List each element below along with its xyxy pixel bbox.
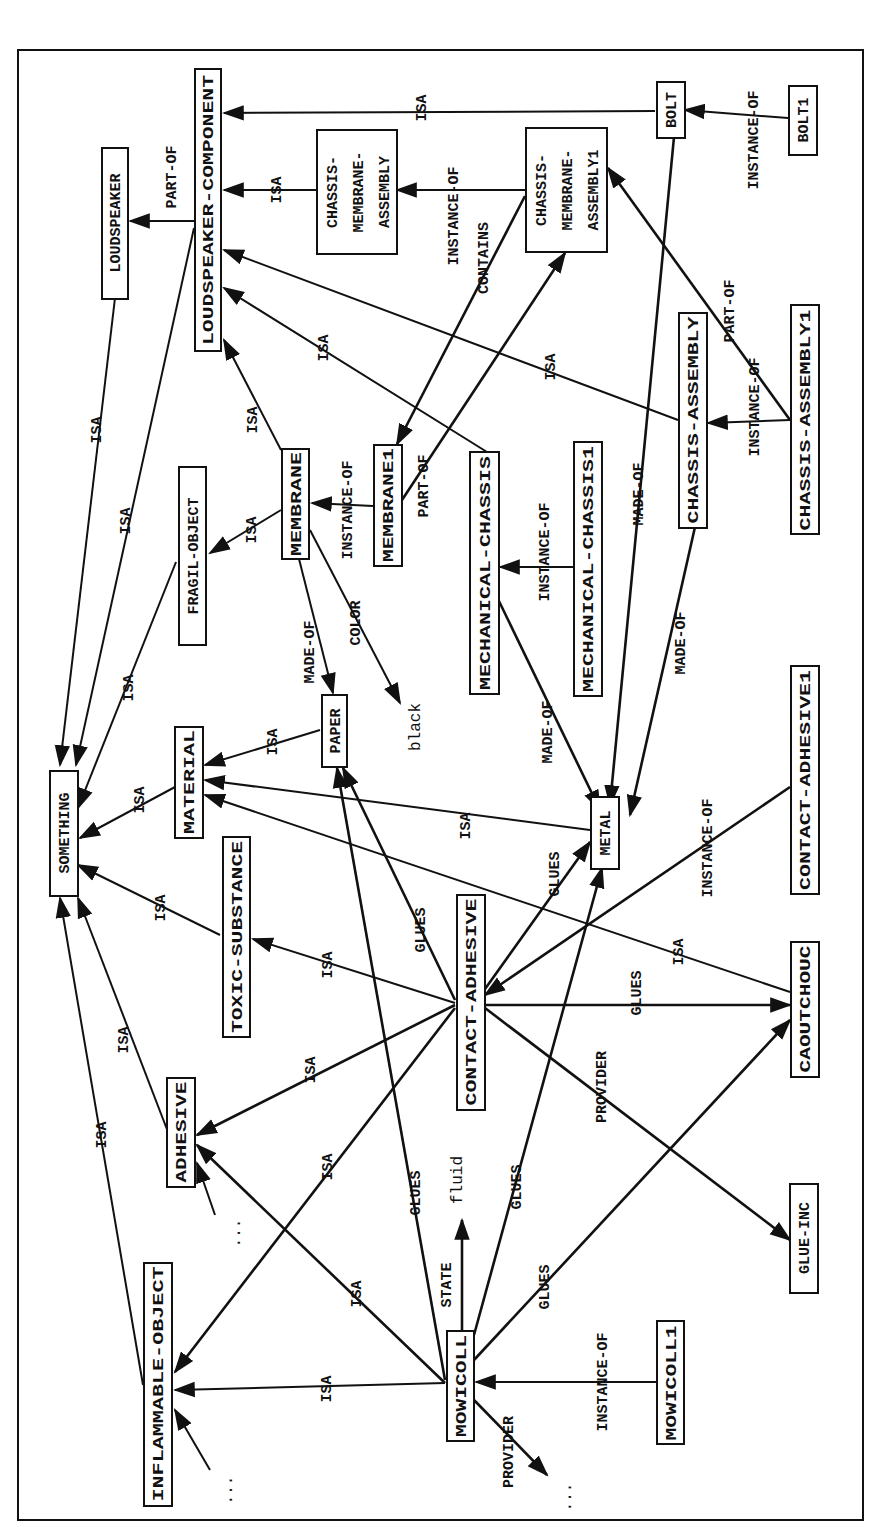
edge-isa-metal-material bbox=[205, 780, 590, 830]
edge-label-isa: ISA bbox=[132, 786, 149, 813]
edge-label-isa: ISA bbox=[303, 1056, 320, 1083]
edge-label-glues: GLUES bbox=[629, 970, 646, 1015]
node-label: PAPER bbox=[328, 708, 345, 753]
node-label: BOLT1 bbox=[796, 97, 813, 142]
node-label: LOUDSPEAKER bbox=[108, 173, 125, 272]
edge-label-isa: ISA bbox=[153, 894, 170, 921]
node-label: fluid bbox=[449, 1156, 467, 1204]
node-chassis-assembly[interactable]: CHASSIS-ASSEMBLY bbox=[679, 313, 707, 528]
node-black[interactable]: black bbox=[407, 703, 425, 751]
edge-label-glues: GLUES bbox=[413, 907, 430, 952]
node-membrane1[interactable]: MEMBRANE1 bbox=[374, 445, 402, 566]
node-mechanical-chassis[interactable]: MECHANICAL-CHASSIS bbox=[470, 452, 499, 694]
edge-label-made-of: MADE-OF bbox=[302, 620, 319, 683]
node-toxic-substance[interactable]: TOXIC-SUBSTANCE bbox=[223, 837, 250, 1037]
edge-label-instance-of: INSTANCE-OF bbox=[537, 502, 554, 601]
node-loudspeaker-component[interactable]: LOUDSPEAKER-COMPONENT bbox=[195, 69, 221, 351]
edge-label-instance-of: INSTANCE-OF bbox=[700, 798, 717, 897]
node-bolt1[interactable]: BOLT1 bbox=[789, 86, 817, 155]
edge-label-contains: CONTAINS bbox=[476, 222, 493, 294]
edge-label-isa: ISA bbox=[319, 1375, 336, 1402]
node-loudspeaker[interactable]: LOUDSPEAKER bbox=[102, 148, 128, 299]
edge-isa-mc-lc bbox=[224, 288, 487, 452]
edge-label-made-of: MADE-OF bbox=[540, 700, 557, 763]
edge-label-instance-of: INSTANCE-OF bbox=[446, 166, 463, 265]
edge-isa-mowicoll-inflammable bbox=[175, 1383, 445, 1390]
node-label: CAOUTCHOUC bbox=[798, 946, 815, 1073]
edge-label-isa: ISA bbox=[265, 728, 282, 755]
ellipsis-label: ... bbox=[227, 1219, 245, 1248]
node-caoutchouc[interactable]: CAOUTCHOUC bbox=[791, 942, 819, 1077]
edge-label-isa: ISA bbox=[245, 406, 262, 433]
node-label: LOUDSPEAKER-COMPONENT bbox=[201, 75, 218, 345]
node-label: MOWICOLL bbox=[454, 1335, 471, 1437]
edge-label-part-of: PART-OF bbox=[164, 145, 181, 208]
edge-glues-ca-paper bbox=[343, 768, 455, 1000]
node-glue-inc[interactable]: GLUE-INC bbox=[790, 1184, 818, 1293]
edge-label-instance-of: INSTANCE-OF bbox=[747, 357, 764, 456]
edge-instance-of-bolt1-bolt bbox=[685, 110, 788, 118]
edge-isa-toxic-something bbox=[78, 865, 220, 935]
node-chassis-assembly1[interactable]: CHASSIS-ASSEMBLY1 bbox=[791, 305, 819, 534]
edge-ellipsis-inflammable bbox=[175, 1410, 210, 1470]
node-chassis-membrane-assembly1[interactable]: CHASSIS- MEMBRANE- ASSEMBLY1 bbox=[526, 128, 607, 252]
node-label: MATERIAL bbox=[182, 730, 199, 834]
node-label-line-1: CHASSIS- bbox=[325, 156, 342, 228]
node-paper[interactable]: PAPER bbox=[322, 695, 347, 767]
edge-label-isa: ISA bbox=[349, 1280, 366, 1307]
edge-ellipsis-adhesive bbox=[197, 1163, 215, 1215]
edge-label-provider: PROVIDER bbox=[501, 1416, 518, 1488]
edge-label-isa: ISA bbox=[320, 951, 337, 978]
node-label: MECHANICAL-CHASSIS bbox=[478, 456, 495, 690]
node-label-line-2: MEMBRANE- bbox=[560, 149, 577, 230]
node-label: FRAGIL-OBJECT bbox=[186, 497, 203, 614]
node-label: ADHESIVE bbox=[174, 1082, 191, 1183]
node-adhesive[interactable]: ADHESIVE bbox=[167, 1078, 195, 1187]
semantic-network-diagram: PART-OF ISA ISA INSTANCE-OF CONTAINS INS… bbox=[0, 0, 878, 1527]
edge-label-part-of: PART-OF bbox=[416, 454, 433, 517]
edge-label-color: COLOR bbox=[348, 600, 365, 645]
edge-label-part-of: PART-OF bbox=[722, 279, 739, 342]
edge-label-isa: ISA bbox=[118, 507, 135, 534]
node-ellipsis-inflammable[interactable]: ... bbox=[219, 1476, 237, 1505]
node-label: CONTACT-ADHESIVE1 bbox=[798, 670, 815, 890]
node-label-line-3: ASSEMBLY bbox=[377, 156, 394, 228]
node-mechanical-chassis1[interactable]: MECHANICAL-CHASSIS1 bbox=[574, 442, 602, 696]
edge-isa-adhesive-something bbox=[78, 898, 168, 1132]
node-metal[interactable]: METAL bbox=[591, 797, 619, 869]
node-chassis-membrane-assembly[interactable]: CHASSIS- MEMBRANE- ASSEMBLY bbox=[317, 130, 397, 254]
edge-label-instance-of: INSTANCE-OF bbox=[340, 460, 357, 559]
edge-label-isa: ISA bbox=[458, 812, 475, 839]
edge-label-isa: ISA bbox=[94, 1121, 111, 1148]
node-bolt[interactable]: BOLT bbox=[657, 82, 685, 138]
node-label: TOXIC-SUBSTANCE bbox=[230, 841, 247, 1033]
node-label: MECHANICAL-CHASSIS1 bbox=[581, 446, 598, 692]
node-ellipsis-adhesive[interactable]: ... bbox=[227, 1219, 245, 1248]
edge-label-glues: GLUES bbox=[408, 1170, 425, 1215]
node-label: CONTACT-ADHESIVE bbox=[464, 899, 481, 1106]
edge-label-instance-of: INSTANCE-OF bbox=[746, 90, 763, 189]
node-label: MEMBRANE1 bbox=[381, 448, 398, 562]
node-ellipsis-provider[interactable]: ... bbox=[558, 1483, 576, 1512]
node-contact-adhesive[interactable]: CONTACT-ADHESIVE bbox=[457, 895, 485, 1110]
edge-label-glues: GLUES bbox=[547, 851, 564, 896]
edge-isa-paper-material bbox=[205, 730, 320, 765]
node-label: MOWICOLL1 bbox=[664, 1326, 681, 1441]
node-material[interactable]: MATERIAL bbox=[175, 727, 203, 838]
node-membrane[interactable]: MEMBRANE bbox=[282, 449, 309, 559]
node-something[interactable]: SOMETHING bbox=[50, 771, 78, 896]
node-inflammable-object[interactable]: INFLAMMABLE-OBJECT bbox=[144, 1263, 172, 1506]
edge-label-provider: PROVIDER bbox=[594, 1051, 611, 1123]
node-fragil-object[interactable]: FRAGIL-OBJECT bbox=[179, 467, 206, 645]
node-contact-adhesive1[interactable]: CONTACT-ADHESIVE1 bbox=[791, 666, 819, 894]
node-mowicoll1[interactable]: MOWICOLL1 bbox=[657, 1321, 684, 1444]
nodes: SOMETHING LOUDSPEAKER LOUDSPEAKER-COMPON… bbox=[50, 69, 819, 1511]
edge-label-instance-of: INSTANCE-OF bbox=[595, 1332, 612, 1431]
edge-label-isa: ISA bbox=[121, 674, 138, 701]
edge-isa-material-something bbox=[80, 787, 175, 838]
edge-label-glues: GLUES bbox=[537, 1264, 554, 1309]
edge-label-isa: ISA bbox=[414, 94, 431, 121]
edge-label-isa: ISA bbox=[269, 176, 286, 203]
node-mowicoll[interactable]: MOWICOLL bbox=[447, 1331, 474, 1441]
node-fluid[interactable]: fluid bbox=[449, 1156, 467, 1204]
